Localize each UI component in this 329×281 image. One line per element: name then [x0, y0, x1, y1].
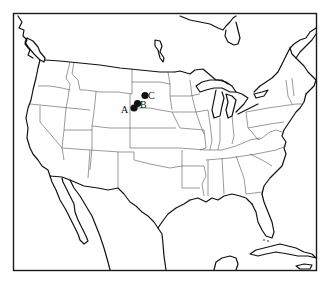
- site-c-label: C: [148, 90, 155, 101]
- map-figure: A B C: [0, 0, 329, 281]
- map-border: [14, 14, 317, 271]
- site-b-label: B: [140, 99, 147, 110]
- us-map: A B C: [0, 0, 329, 281]
- site-a-label: A: [121, 104, 129, 115]
